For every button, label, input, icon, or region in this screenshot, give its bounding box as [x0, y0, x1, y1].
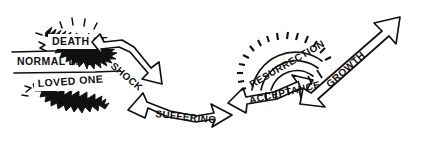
stage-growth: GROWTH: [300, 17, 400, 107]
grief-process-illustration: NORMAL LIFE DEATH OF LOVED ONE SHOCK: [0, 0, 426, 151]
label-growth: GROWTH: [324, 49, 367, 89]
grief-diagram-root: NORMAL LIFE DEATH OF LOVED ONE SHOCK: [0, 0, 426, 151]
label-suffering: SUFFERING: [155, 108, 217, 125]
label-shock: SHOCK: [109, 60, 146, 93]
stage-suffering: SUFFERING: [128, 93, 232, 127]
starburst-loved-one: LOVED ONE: [22, 72, 110, 113]
